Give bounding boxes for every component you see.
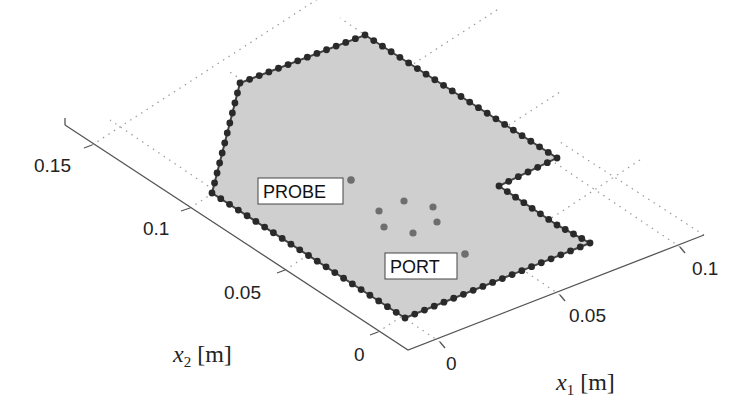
boundary-node	[479, 283, 486, 290]
boundary-node	[244, 212, 251, 219]
boundary-node	[414, 65, 421, 72]
boundary-node	[252, 218, 259, 225]
boundary-node	[288, 241, 295, 248]
boundary-node	[235, 207, 242, 214]
boundary-node	[221, 140, 228, 147]
boundary-node	[349, 281, 356, 288]
boundary-node	[515, 173, 522, 180]
boundary-node	[305, 252, 312, 259]
probe-point	[347, 176, 355, 184]
boundary-node	[578, 235, 585, 242]
boundary-node	[554, 155, 561, 162]
ring-point	[433, 218, 440, 225]
boundary-node	[538, 259, 545, 266]
boundary-node	[557, 251, 564, 258]
boundary-node	[431, 76, 438, 83]
boundary-node	[323, 46, 330, 53]
boundary-node	[587, 240, 594, 247]
boundary-node	[484, 110, 491, 117]
boundary-node	[226, 120, 233, 127]
boundary-node	[294, 57, 301, 64]
boundary-node	[323, 263, 330, 270]
boundary-node	[545, 149, 552, 156]
y-tick-label: 0.1	[143, 218, 169, 239]
boundary-node	[449, 88, 456, 95]
boundary-node	[402, 315, 409, 322]
boundary-node	[261, 224, 268, 231]
ring-point	[429, 203, 436, 210]
ring-point	[409, 229, 416, 236]
boundary-node	[466, 99, 473, 106]
boundary-node	[234, 90, 241, 97]
boundary-node	[362, 32, 369, 39]
y-axis-label: x2[m]	[172, 341, 232, 370]
boundary-node	[431, 303, 438, 310]
boundary-node	[367, 292, 374, 299]
boundary-node	[256, 72, 263, 79]
boundary-node	[537, 210, 544, 217]
port-annotation: PORT	[385, 253, 457, 279]
boundary-node	[458, 93, 465, 100]
boundary-node	[333, 43, 340, 50]
boundary-node	[534, 164, 541, 171]
boundary-node	[460, 291, 467, 298]
boundary-node	[358, 286, 365, 293]
boundary-node	[510, 127, 517, 134]
y-tick-label: 0	[354, 344, 365, 365]
boundary-node	[505, 178, 512, 185]
boundary-node	[275, 65, 282, 72]
boundary-node	[440, 82, 447, 89]
boundary-node	[393, 309, 400, 316]
boundary-node	[496, 183, 503, 190]
boundary-node	[520, 199, 527, 206]
boundary-node	[489, 279, 496, 286]
boundary-node	[493, 115, 500, 122]
boundary-node	[475, 104, 482, 111]
boundary-node	[342, 39, 349, 46]
probe-label: PROBE	[263, 182, 326, 202]
boundary-node	[314, 258, 321, 265]
boundary-node	[285, 61, 292, 68]
boundary-node	[545, 216, 552, 223]
boundary-node	[397, 54, 404, 61]
boundary-node	[352, 35, 359, 42]
boundary-node	[567, 247, 574, 254]
boundary-node	[504, 188, 511, 195]
boundary-node	[529, 205, 536, 212]
boundary-node	[527, 138, 534, 145]
boundary-node	[331, 269, 338, 276]
port-label: PORT	[390, 257, 440, 277]
ring-point	[375, 207, 382, 214]
boundary-node	[501, 121, 508, 128]
x-tick-label: 0.05	[569, 305, 606, 326]
boundary-node	[229, 110, 236, 117]
ring-point	[400, 197, 407, 204]
boundary-node	[209, 190, 216, 197]
x-tick-label: 0.1	[692, 258, 718, 279]
boundary-node	[384, 303, 391, 310]
chart-canvas: 0.15 0.1 0.05 0 0 0.05 0.1 x2[m] x1[m] P…	[0, 0, 756, 416]
boundary-node	[211, 180, 218, 187]
boundary-node	[470, 287, 477, 294]
boundary-node	[450, 295, 457, 302]
x-tick-label: 0	[446, 353, 457, 374]
boundary-node	[340, 275, 347, 282]
boundary-node	[519, 132, 526, 139]
boundary-node	[370, 37, 377, 44]
boundary-node	[548, 255, 555, 262]
boundary-node	[562, 226, 569, 233]
boundary-node	[518, 267, 525, 274]
boundary-node	[577, 244, 584, 251]
boundary-node	[237, 80, 244, 87]
boundary-node	[232, 100, 239, 107]
boundary-node	[421, 307, 428, 314]
boundary-node	[279, 235, 286, 242]
boundary-node	[536, 143, 543, 150]
boundary-node	[226, 201, 233, 208]
boundary-node	[246, 76, 253, 83]
boundary-node	[224, 130, 231, 137]
boundary-node	[570, 231, 577, 238]
boundary-node	[379, 43, 386, 50]
boundary-node	[217, 195, 224, 202]
probe-annotation: PROBE	[258, 178, 343, 204]
